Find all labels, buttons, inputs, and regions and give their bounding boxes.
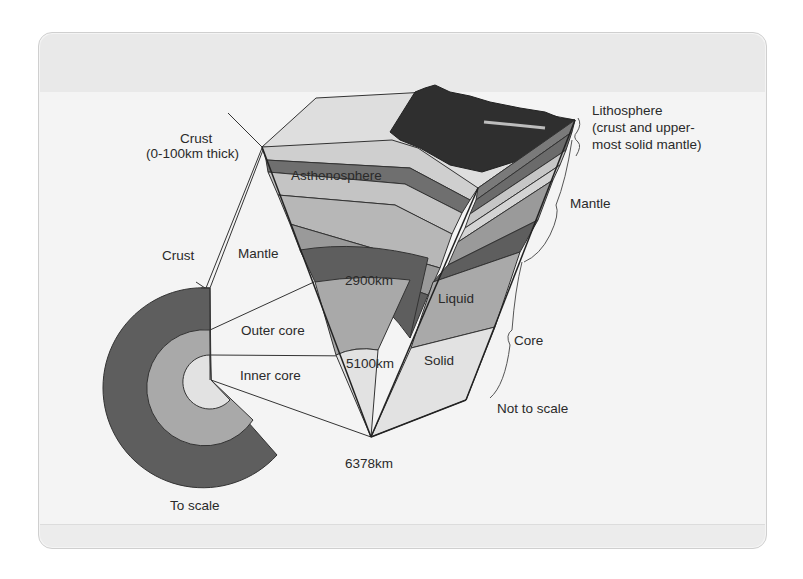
label-mantle-right: Mantle — [570, 195, 611, 212]
label-liquid: Liquid — [438, 290, 474, 307]
label-to-scale: To scale — [170, 497, 220, 514]
label-solid: Solid — [424, 352, 454, 369]
lithosphere-brace — [575, 118, 580, 156]
label-crust-thickness: (0-100km thick) — [146, 145, 239, 162]
label-lithosphere-desc-1: (crust and upper- — [592, 119, 695, 136]
label-crust-left: Crust — [162, 247, 194, 264]
label-depth-2900: 2900km — [345, 272, 393, 289]
label-not-to-scale: Not to scale — [497, 400, 568, 417]
label-asthenosphere: Asthenosphere — [291, 167, 382, 184]
label-mantle-left: Mantle — [238, 245, 279, 262]
inner-core-disc — [183, 355, 230, 409]
earth-interior-diagram — [0, 0, 803, 579]
label-lithosphere-desc-2: most solid mantle) — [592, 136, 702, 153]
label-depth-5100: 5100km — [346, 355, 394, 372]
to-scale-cross-section — [103, 288, 277, 488]
label-core-right: Core — [514, 332, 543, 349]
label-inner-core: Inner core — [240, 367, 301, 384]
right-inner-core — [371, 327, 495, 437]
earth-wedge — [262, 85, 575, 437]
label-depth-6378: 6378km — [345, 455, 393, 472]
label-outer-core: Outer core — [241, 322, 305, 339]
label-lithosphere: Lithosphere — [592, 102, 663, 119]
